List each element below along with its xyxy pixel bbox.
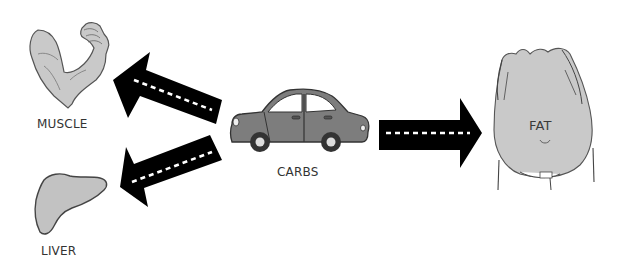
muscle-label: MUSCLE: [37, 117, 88, 131]
arrow-to-liver: [120, 135, 222, 207]
liver-label: LIVER: [41, 244, 76, 258]
arrow-to-fat: [379, 98, 482, 168]
arrow-to-muscle: [113, 52, 222, 124]
fat-label: FAT: [529, 118, 552, 133]
carbs-label: CARBS: [277, 165, 319, 179]
diagram-canvas: [0, 0, 628, 268]
liver-icon: [35, 174, 106, 234]
car-icon: [231, 89, 369, 152]
flexed-arm-icon: [30, 23, 109, 108]
